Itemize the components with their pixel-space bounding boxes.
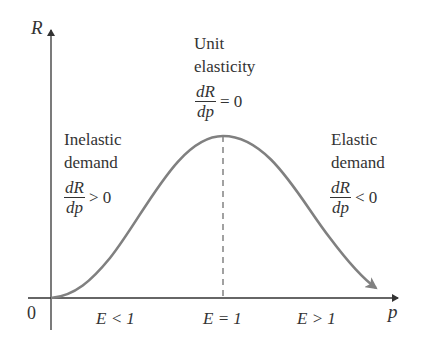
elasticity-label-inelastic: E < 1 <box>96 309 135 329</box>
unit-heading-1: Unit <box>194 34 224 54</box>
frac-num: dR <box>64 178 85 198</box>
relation: > 0 <box>89 188 111 208</box>
inelastic-derivative: dRdp> 0 <box>64 178 111 217</box>
relation: < 0 <box>355 188 377 208</box>
frac-den: dp <box>332 198 349 217</box>
frac-num: dR <box>330 178 351 198</box>
inelastic-heading-1: Inelastic <box>64 130 122 150</box>
frac-den: dp <box>197 102 214 121</box>
relation: = 0 <box>220 92 242 112</box>
unit-derivative: dRdp= 0 <box>195 82 242 121</box>
origin-label: 0 <box>27 303 36 323</box>
elasticity-label-elastic: E > 1 <box>297 309 336 329</box>
frac-num: dR <box>195 82 216 102</box>
elastic-derivative: dRdp< 0 <box>330 178 377 217</box>
x-axis-label: p <box>388 302 398 322</box>
elastic-heading-2: demand <box>331 153 385 173</box>
unit-heading-2: elasticity <box>194 57 255 77</box>
inelastic-heading-2: demand <box>64 153 118 173</box>
elasticity-label-unit: E = 1 <box>203 309 242 329</box>
frac-den: dp <box>66 198 83 217</box>
y-axis-label: R <box>31 18 43 38</box>
elastic-heading-1: Elastic <box>331 130 377 150</box>
